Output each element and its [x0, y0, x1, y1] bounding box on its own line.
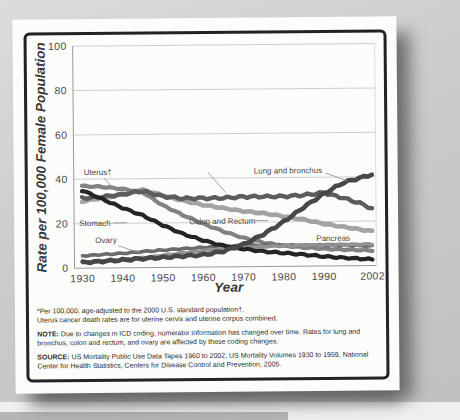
y-axis-line: [73, 46, 75, 268]
plot-area: 0204060801001930194019501960197019801990…: [48, 37, 385, 284]
cancer-death-rate-chart: Rate per 100,000 Female Population 02040…: [28, 33, 386, 304]
y-tick-label: 60: [55, 129, 68, 141]
gridline-y: [74, 177, 376, 180]
y-tick-label: 80: [54, 84, 67, 96]
breast-leader-leader-line: [208, 172, 226, 193]
y-tick-label: 100: [48, 40, 67, 52]
footnote-uterus: Uterus cancer death rates are for uterin…: [37, 315, 278, 324]
y-axis-title: Rate per 100,000 Female Population: [33, 42, 50, 272]
ovary-label: Ovary: [95, 236, 116, 245]
y-tick-label: 20: [56, 217, 69, 229]
gridline-y: [73, 88, 375, 91]
photo-background: Rate per 100,000 Female Population 02040…: [0, 0, 460, 420]
plot-right-border: [375, 44, 377, 266]
stomach-label: Stomach: [79, 219, 111, 228]
x-tick-label: 1950: [151, 271, 176, 283]
uterus-label: Uterus†: [84, 168, 112, 177]
y-tick-label: 0: [62, 262, 68, 274]
x-tick-label: 1960: [191, 271, 216, 283]
footnote-source: SOURCE: US Mortality Public Use Data Tap…: [37, 349, 381, 370]
gridline-y: [73, 44, 375, 47]
x-tick-label: 1930: [70, 272, 95, 284]
y-tick-label: 40: [55, 173, 68, 185]
book-page: Rate per 100,000 Female Population 02040…: [12, 16, 399, 393]
figure-footnotes: *Per 100,000, age-adjusted to the 2000 U…: [37, 303, 382, 375]
x-tick-label: 2002: [360, 269, 385, 281]
gridline-y: [75, 266, 377, 269]
page-edge-strip: [0, 412, 288, 420]
figure-frame: Rate per 100,000 Female Population 02040…: [23, 29, 389, 382]
pancreas-label: Pancreas: [316, 234, 350, 243]
x-tick-label: 1940: [110, 272, 135, 284]
footnote-note: NOTE: Due to changes in ICD coding, nume…: [37, 326, 381, 347]
lung-label: Lung and bronchus: [254, 166, 323, 176]
footnote-population: *Per 100,000, age-adjusted to the 2000 U…: [37, 303, 381, 324]
x-axis-title: Year: [214, 280, 244, 295]
x-tick-label: 1990: [312, 270, 337, 282]
x-tick-label: 1980: [271, 270, 296, 282]
colon-label: Colon and Rectum: [189, 217, 256, 227]
gridline-y: [73, 132, 375, 135]
